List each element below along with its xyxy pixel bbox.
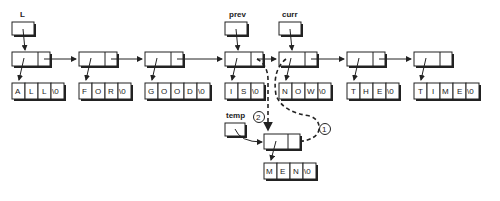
step-2-marker: 2 [254,112,265,123]
svg-text:L: L [20,10,25,19]
svg-text:\0: \0 [387,87,394,96]
node-for [79,52,142,80]
svg-text:R: R [108,87,114,96]
svg-text:\0: \0 [198,87,205,96]
svg-text:L: L [42,87,47,96]
svg-text:I: I [230,87,232,96]
linked-list-diagram: L prev curr [0,0,500,201]
svg-text:G: G [148,87,154,96]
node-is [225,52,276,80]
svg-text:\0: \0 [252,87,259,96]
svg-text:O: O [295,87,301,96]
string-now: N O W \0 [279,83,333,101]
svg-text:D: D [187,87,193,96]
svg-text:2: 2 [256,113,261,122]
svg-text:L: L [29,87,34,96]
node-time [414,52,454,80]
svg-text:M: M [442,87,449,96]
svg-text:\0: \0 [304,167,311,176]
svg-text:M: M [266,167,273,176]
string-men: M E N \0 [264,163,318,181]
svg-text:prev: prev [229,10,246,19]
svg-text:temp: temp [226,111,245,120]
pointer-L: L [12,10,36,50]
svg-text:\0: \0 [319,87,326,96]
string-good: G O O D \0 [145,83,212,101]
svg-text:F: F [82,87,87,96]
svg-text:O: O [95,87,101,96]
pointer-prev: prev [225,10,249,50]
svg-text:\0: \0 [52,87,59,96]
svg-text:W: W [307,87,315,96]
node-all [12,52,76,80]
string-all: A L L \0 [12,83,66,101]
svg-text:\0: \0 [119,87,126,96]
node-men [264,134,302,160]
svg-text:H: H [363,87,369,96]
string-for: F O R \0 [79,83,133,101]
svg-text:curr: curr [282,10,298,19]
svg-text:N: N [293,167,299,176]
svg-text:N: N [282,87,288,96]
pointer-curr: curr [279,10,303,50]
svg-text:E: E [457,87,462,96]
svg-text:\0: \0 [467,87,474,96]
string-the: T H E \0 [347,83,401,101]
svg-text:T: T [418,87,423,96]
node-now [279,52,344,80]
svg-text:I: I [432,87,434,96]
node-good [145,52,222,80]
string-time: T I M E \0 [414,83,481,101]
node-the [347,52,411,80]
svg-text:O: O [161,87,167,96]
svg-text:O: O [174,87,180,96]
svg-text:1: 1 [322,125,327,134]
svg-text:E: E [377,87,382,96]
svg-text:A: A [15,87,21,96]
svg-text:E: E [280,167,285,176]
svg-text:S: S [241,87,246,96]
string-is: I S \0 [225,83,266,101]
svg-text:T: T [351,87,356,96]
step-1-marker: 1 [320,124,331,135]
